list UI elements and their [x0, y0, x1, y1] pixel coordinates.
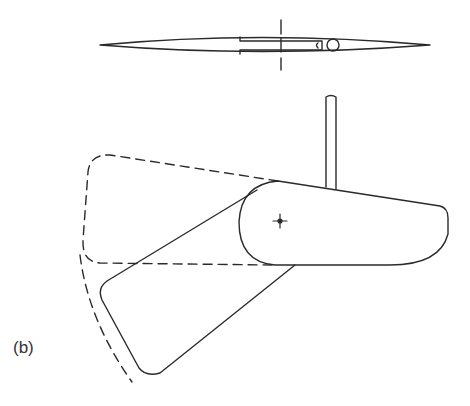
main-blade [239, 181, 448, 265]
technical-drawing [0, 0, 470, 406]
figure-label: (b) [13, 338, 34, 358]
rotated-blade [100, 190, 295, 374]
dashed-outline [80, 155, 278, 382]
diagram-canvas: (b) [0, 0, 470, 406]
top-view [100, 20, 430, 70]
shaft [326, 96, 336, 190]
